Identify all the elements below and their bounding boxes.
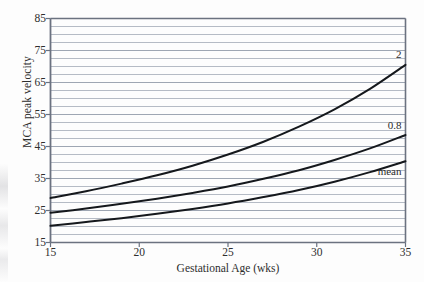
minor-gridlines xyxy=(51,19,406,243)
axis-ticks xyxy=(46,19,406,248)
plot-area xyxy=(0,0,424,282)
curve-label-2: 2 xyxy=(396,48,402,60)
figure-container: MCA peak velocity Gestational Age (wks) … xyxy=(0,0,424,282)
curve-label-mean: mean xyxy=(378,165,402,177)
data-curves xyxy=(51,65,406,226)
curve-label-0-8: 0.8 xyxy=(388,119,402,131)
